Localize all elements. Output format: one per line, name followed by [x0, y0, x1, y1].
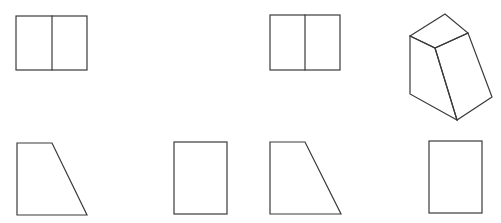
view-a-front-trapezoid	[17, 143, 87, 215]
wedge-sloped-face	[435, 33, 492, 120]
drawing-canvas	[0, 0, 501, 223]
view-b-front-trapezoid	[270, 142, 341, 214]
projection-drawing	[0, 0, 501, 223]
isometric-wedge	[410, 14, 492, 120]
view-a-top	[16, 16, 87, 70]
wedge-top-face	[410, 14, 468, 48]
view-b-top	[270, 15, 340, 70]
view-b-side-rectangle	[429, 141, 482, 213]
wedge-left-face	[410, 36, 457, 120]
view-a-side-rectangle	[174, 142, 227, 214]
